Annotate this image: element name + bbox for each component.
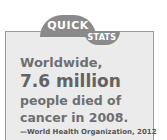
stat-line-4: cancer in 2008. xyxy=(20,110,128,125)
source-citation: —World Health Organization, 2012 xyxy=(20,128,157,136)
stat-figure: 7.6 million xyxy=(20,71,121,91)
stat-line-1: Worldwide, xyxy=(20,55,103,70)
stat-line-3: people died of xyxy=(20,93,121,108)
